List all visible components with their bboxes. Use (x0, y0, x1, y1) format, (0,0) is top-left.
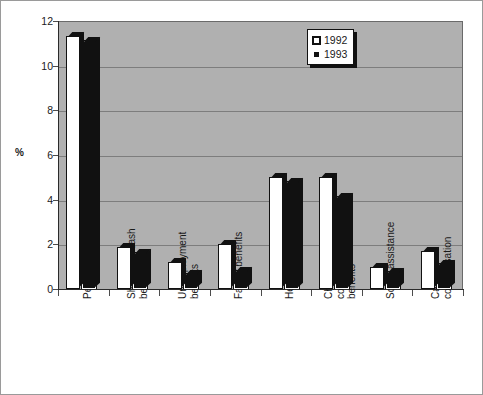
bar-group (210, 21, 261, 289)
x-axis-tick-mark (58, 290, 59, 296)
legend-swatch-hollow-square-icon (312, 36, 321, 45)
bar-group (58, 21, 109, 289)
bar-group (261, 21, 312, 289)
bar-group (412, 21, 463, 289)
bar-side-face (434, 247, 439, 287)
legend-label-1993: 1993 (324, 48, 347, 60)
legend: 1992 1993 (307, 29, 354, 65)
y-axis-tick-label: 10 (33, 60, 53, 72)
bar-side-face (130, 242, 135, 287)
y-axis-title: % (15, 147, 24, 158)
x-axis-tick-mark (463, 290, 464, 296)
plot-area (58, 21, 463, 289)
bar-side-face (197, 270, 202, 287)
x-axis-tick-mark (109, 290, 110, 296)
bar-1993 (133, 253, 147, 289)
legend-label-1992: 1992 (324, 34, 347, 46)
bar-side-face (146, 249, 151, 287)
bar-side-face (399, 268, 404, 287)
y-axis-tick-label: 12 (33, 15, 53, 27)
x-axis-tick-mark (311, 290, 312, 296)
bar-1992 (218, 244, 232, 289)
legend-entry-1993: 1993 (312, 47, 347, 61)
y-axis-tick-label: 2 (33, 238, 53, 250)
bar-side-face (247, 267, 252, 287)
bar-1992 (319, 177, 333, 289)
bar-1992 (117, 247, 131, 289)
bar-side-face (79, 31, 84, 287)
bar-side-face (95, 37, 100, 287)
bar-chart-figure: % 024681012 PensionsShort term cashbenef… (0, 0, 483, 395)
bar-1992 (370, 267, 384, 289)
y-axis-tick-labels: 024681012 (29, 1, 53, 395)
x-axis-tick-mark (210, 290, 211, 296)
y-axis-tick-label: 8 (33, 104, 53, 116)
bar-1992 (66, 36, 80, 289)
legend-swatch-filled-square-icon (312, 50, 321, 59)
bar-side-face (231, 240, 236, 287)
bar-1993 (234, 271, 248, 289)
bar-side-face (282, 173, 287, 287)
x-axis-tick-mark (412, 290, 413, 296)
y-axis-line (58, 21, 59, 290)
bar-side-face (348, 193, 353, 287)
bar-side-face (383, 262, 388, 287)
bar-1993 (335, 197, 349, 289)
bar-1993 (82, 41, 96, 289)
bar-1992 (421, 251, 435, 289)
legend-entry-1992: 1992 (312, 33, 347, 47)
bar-1993 (386, 272, 400, 289)
y-axis-tick-label: 0 (33, 283, 53, 295)
bar-side-face (181, 258, 186, 287)
y-axis-tick-label: 6 (33, 149, 53, 161)
bar-side-face (450, 260, 455, 287)
bar-1992 (168, 262, 182, 289)
bar-group (109, 21, 160, 289)
x-axis-tick-mark (362, 290, 363, 296)
bar-1992 (269, 177, 283, 289)
x-axis-tick-mark (159, 290, 160, 296)
bar-side-face (298, 178, 303, 288)
y-axis-tick-label: 4 (33, 194, 53, 206)
x-axis-tick-mark (261, 290, 262, 296)
bar-side-face (332, 173, 337, 287)
